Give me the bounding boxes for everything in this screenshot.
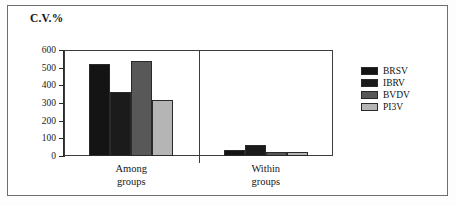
legend-item-ibrv[interactable]: IBRV — [361, 77, 441, 89]
legend-swatch-icon — [361, 79, 378, 87]
y-axis-tick-mark — [59, 103, 63, 104]
y-axis-tick-mark — [59, 85, 63, 86]
legend-label: BRSV — [383, 66, 408, 76]
legend-item-pi3v[interactable]: PI3V — [361, 101, 441, 113]
legend-label: BVDV — [383, 90, 410, 100]
x-axis-label-among-groups: Amonggroups — [71, 163, 191, 188]
bar-pi3v-within-groups[interactable] — [287, 152, 308, 156]
y-axis-tick-mark — [59, 156, 63, 157]
y-axis-tick-label: 100 — [26, 133, 56, 143]
y-axis-tick-mark — [59, 68, 63, 69]
bar-ibrv-among-groups[interactable] — [110, 92, 131, 156]
y-axis-tick-mark — [59, 50, 63, 51]
bar-group-among-groups — [64, 50, 199, 156]
y-axis-tick-label: 0 — [26, 151, 56, 161]
bar-group-within-groups — [199, 50, 334, 156]
bar-brsv-among-groups[interactable] — [89, 64, 110, 156]
bar-bvdv-within-groups[interactable] — [266, 152, 287, 156]
y-axis-tick-mark — [59, 121, 63, 122]
legend-item-bvdv[interactable]: BVDV — [361, 89, 441, 101]
y-axis-tick-label: 500 — [26, 63, 56, 73]
chart-title: C.V.% — [30, 12, 63, 24]
x-axis-label-line: groups — [71, 176, 191, 189]
legend-label: IBRV — [383, 78, 405, 88]
bar-pi3v-among-groups[interactable] — [152, 100, 173, 156]
y-axis-tick-label: 200 — [26, 116, 56, 126]
x-axis-label-line: Within — [206, 163, 326, 176]
y-axis-tick-labels: 6005004003002001000 — [24, 50, 56, 156]
x-axis-label-within-groups: Withingroups — [206, 163, 326, 188]
bar-ibrv-within-groups[interactable] — [245, 145, 266, 156]
legend-swatch-icon — [361, 103, 378, 111]
y-axis-tick-label: 400 — [26, 80, 56, 90]
x-axis-label-line: Among — [71, 163, 191, 176]
legend-swatch-icon — [361, 91, 378, 99]
plot-area — [64, 50, 333, 156]
bar-bvdv-among-groups[interactable] — [131, 61, 152, 156]
chart-legend: BRSVIBRVBVDVPI3V — [361, 65, 441, 113]
y-axis-tick-label: 300 — [26, 98, 56, 108]
legend-swatch-icon — [361, 67, 378, 75]
chart-figure: C.V.% 6005004003002001000 AmonggroupsWit… — [0, 0, 456, 206]
legend-item-brsv[interactable]: BRSV — [361, 65, 441, 77]
y-axis-tick-label: 600 — [26, 45, 56, 55]
x-axis-label-line: groups — [206, 176, 326, 189]
bar-brsv-within-groups[interactable] — [224, 150, 245, 156]
y-axis-tick-mark — [59, 138, 63, 139]
legend-label: PI3V — [383, 102, 403, 112]
